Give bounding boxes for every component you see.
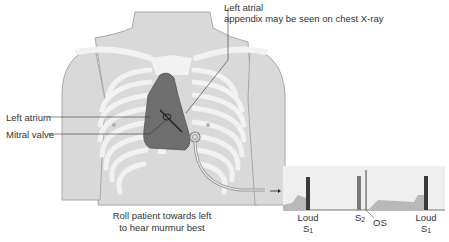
label-os: OS bbox=[373, 217, 387, 228]
s2-bar bbox=[357, 176, 361, 210]
label-roll-patient-1: Roll patient towards left bbox=[112, 210, 212, 221]
label-loud-s1-first: Loud S1 bbox=[296, 212, 320, 235]
phonocardiogram bbox=[283, 166, 445, 218]
s1-text: S1 bbox=[414, 223, 438, 235]
label-left-atrial-appendix-1: Left atrial bbox=[224, 2, 263, 13]
label-left-atrium: Left atrium bbox=[6, 112, 51, 123]
label-mitral-valve: Mitral valve bbox=[6, 129, 54, 140]
label-loud-s1-second: Loud S1 bbox=[414, 212, 438, 235]
label-s2: S2 bbox=[355, 212, 365, 224]
s1-text: S1 bbox=[296, 223, 320, 235]
stethoscope-head bbox=[190, 132, 200, 142]
label-left-atrial-appendix-2: appendix may be seen on chest X-ray bbox=[224, 13, 383, 24]
label-roll-patient-2: to hear murmur best bbox=[112, 222, 212, 233]
loud-text: Loud bbox=[296, 212, 320, 223]
loud-text: Loud bbox=[414, 212, 438, 223]
s1-bar-2 bbox=[424, 176, 428, 210]
s1-bar-1 bbox=[306, 177, 310, 210]
chest-diagram bbox=[0, 0, 449, 242]
